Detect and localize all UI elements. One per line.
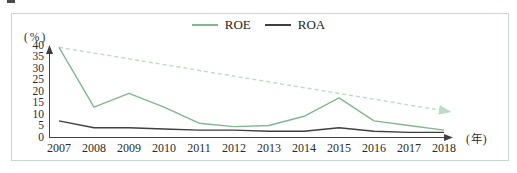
x-year-label: 2008 <box>82 141 106 155</box>
roa-line-swatch <box>265 24 291 26</box>
x-axis-unit-label: (年) <box>466 130 488 146</box>
trend-line <box>59 47 450 111</box>
legend-item-roa: ROA <box>265 17 325 33</box>
x-year-label: 2012 <box>222 141 246 155</box>
chart-legend: ROE ROA <box>0 17 517 33</box>
x-year-label: 2015 <box>327 141 351 155</box>
x-year-label: 2011 <box>187 141 211 155</box>
x-year-label: 2010 <box>152 141 176 155</box>
y-tick-label: 20 <box>33 85 45 97</box>
y-tick-label: 0 <box>38 131 44 143</box>
y-tick-label: 25 <box>33 73 45 85</box>
x-year-label: 2018 <box>432 141 456 155</box>
x-year-label: 2016 <box>362 141 386 155</box>
legend-item-roe: ROE <box>192 17 251 33</box>
x-year-label: 2014 <box>292 141 316 155</box>
x-year-label: 2009 <box>117 141 141 155</box>
x-year-label: 2013 <box>257 141 281 155</box>
y-tick-label: 10 <box>33 108 45 120</box>
roe-line-swatch <box>192 24 218 26</box>
roe-line <box>59 47 444 130</box>
y-tick-label: 35 <box>33 50 45 62</box>
y-axis-unit-label: (%) <box>24 31 47 43</box>
y-tick-label: 5 <box>38 119 44 131</box>
y-tick-label: 15 <box>33 96 45 108</box>
y-tick-label: 30 <box>33 62 45 74</box>
x-year-label: 2017 <box>397 141 421 155</box>
x-year-label: 2007 <box>47 141 71 155</box>
legend-label-roe: ROE <box>225 17 251 33</box>
legend-label-roa: ROA <box>298 17 325 33</box>
